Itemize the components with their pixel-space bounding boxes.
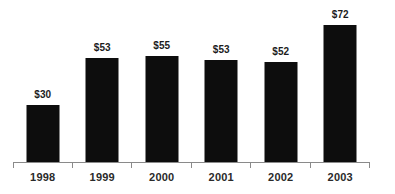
x-axis-label-2003: 2003 (328, 168, 353, 186)
bar-value-label: $55 (153, 41, 170, 51)
bar-rect (26, 105, 59, 162)
bar-rect (264, 62, 297, 162)
bar-slot: $52 (251, 10, 311, 162)
bar-column: $52 (264, 10, 297, 162)
x-axis-label-1999: 1999 (90, 168, 115, 186)
bar-column: $53 (205, 10, 238, 162)
bar-column: $72 (324, 10, 357, 162)
bar-value-label: $72 (332, 10, 349, 20)
bar-slot: $72 (311, 10, 371, 162)
bar-value-label: $30 (34, 90, 51, 100)
bar-value-label: $53 (94, 43, 111, 53)
bar-slot: $53 (73, 10, 133, 162)
x-axis-label-2000: 2000 (149, 168, 174, 186)
plot-area: $30 $53 $55 $53 $52 (13, 10, 370, 162)
bar-chart: $30 $53 $55 $53 $52 (0, 0, 395, 194)
x-axis-label-2002: 2002 (268, 168, 293, 186)
bar-rect (324, 25, 357, 162)
x-axis-label-2001: 2001 (209, 168, 234, 186)
bar-slot: $53 (192, 10, 252, 162)
bar-column: $55 (145, 10, 178, 162)
bar-slot: $30 (13, 10, 73, 162)
bar-value-label: $52 (272, 47, 289, 57)
bar-value-label: $53 (213, 45, 230, 55)
x-axis-label-1998: 1998 (30, 168, 55, 186)
bar-rect (145, 56, 178, 162)
x-axis-category-labels: 1998 1999 2000 2001 2002 2003 (13, 168, 370, 188)
bar-column: $53 (86, 10, 119, 162)
bar-column: $30 (26, 10, 59, 162)
bar-rect (205, 60, 238, 162)
bar-rect (86, 58, 119, 162)
bar-slot: $55 (132, 10, 192, 162)
